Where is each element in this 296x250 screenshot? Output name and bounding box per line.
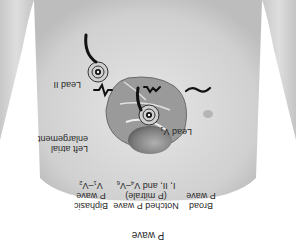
diagram-rotated: P wave Broad P wave Notched P wave (P mi… (0, 0, 296, 250)
label-left-atrial-enlargement: Left atrial enlargement (38, 134, 88, 154)
torso-illustration (0, 0, 296, 250)
label-notched: Notched P wave (P mitrale) I, II, and V4… (106, 178, 186, 211)
label-lead-v1: Lead V1 (160, 124, 192, 137)
figure-title: P wave (118, 230, 178, 240)
label-biphasic: Biphasic P wave V1–V2 (66, 178, 116, 211)
arm-right (0, 0, 34, 140)
arm-left (262, 0, 296, 140)
label-lead-ii: Lead II (53, 80, 81, 90)
nipple (203, 110, 213, 118)
